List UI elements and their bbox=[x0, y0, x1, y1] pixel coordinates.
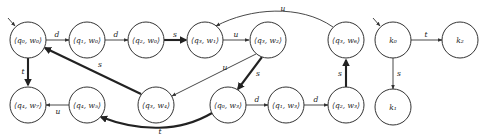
edge-q3w2-q3w4 bbox=[172, 54, 256, 96]
state-label: k₀ bbox=[389, 36, 397, 45]
edge-label: u bbox=[223, 63, 228, 72]
state-label: ⟨q₃, w₄⟩ bbox=[142, 101, 170, 110]
edge-label: t bbox=[21, 67, 25, 76]
state-q3-w1: ⟨q₃, w₁⟩ bbox=[187, 22, 223, 58]
state-k0: k₀ bbox=[375, 22, 411, 58]
state-label: k₁ bbox=[389, 103, 397, 112]
state-q4-w7: ⟨q₄, w₇⟩ bbox=[10, 87, 46, 123]
state-k1: k₁ bbox=[375, 89, 411, 125]
state-q0-w0: ⟨q₀, w₀⟩ bbox=[10, 22, 46, 58]
state-q0-w3: ⟨q₀, w₃⟩ bbox=[210, 87, 246, 123]
state-label: ⟨q₁, w₃⟩ bbox=[272, 101, 300, 110]
state-label: ⟨q₁, w₀⟩ bbox=[73, 36, 101, 45]
edge-label: s bbox=[173, 30, 177, 39]
state-label: k₂ bbox=[456, 36, 464, 45]
state-label: ⟨q₀, w₀⟩ bbox=[14, 36, 42, 45]
state-label: ⟨q₂, w₃⟩ bbox=[332, 101, 360, 110]
state-label: ⟨q₄, w₇⟩ bbox=[14, 101, 42, 110]
state-label: ⟨q₂, w₀⟩ bbox=[132, 36, 160, 45]
edge-label: u bbox=[56, 107, 61, 116]
state-label: ⟨q₃, w₁⟩ bbox=[191, 36, 219, 45]
state-label: ⟨q₀, w₃⟩ bbox=[214, 101, 242, 110]
automaton-diagram: d d s u u u s s t u t d d s t s ⟨q₀, w₀⟩… bbox=[0, 0, 496, 137]
edge-label: s bbox=[98, 60, 102, 69]
state-q3-w2: ⟨q₃, w₂⟩ bbox=[250, 22, 286, 58]
state-q1-w0: ⟨q₁, w₀⟩ bbox=[69, 22, 105, 58]
edge-label: d bbox=[114, 30, 119, 39]
edge-label: s bbox=[338, 69, 342, 78]
state-q2-w3: ⟨q₂, w₃⟩ bbox=[328, 87, 364, 123]
state-q4-w5: ⟨q₄, w₅⟩ bbox=[69, 87, 105, 123]
edge-label: d bbox=[255, 95, 260, 104]
edge-label: d bbox=[314, 95, 319, 104]
state-label: ⟨q₄, w₅⟩ bbox=[73, 101, 101, 110]
state-q3-w6: ⟨q₃, w₆⟩ bbox=[328, 22, 364, 58]
initial-arrow-k0 bbox=[373, 18, 380, 26]
state-k2: k₂ bbox=[442, 22, 478, 58]
edge-label: d bbox=[55, 30, 60, 39]
edge-label: u bbox=[281, 4, 286, 13]
initial-arrow-q0w0 bbox=[8, 18, 15, 26]
edge-label: s bbox=[397, 69, 401, 78]
state-q3-w4: ⟨q₃, w₄⟩ bbox=[138, 87, 174, 123]
state-label: ⟨q₃, w₆⟩ bbox=[332, 36, 360, 45]
state-q1-w3: ⟨q₁, w₃⟩ bbox=[268, 87, 304, 123]
state-label: ⟨q₃, w₂⟩ bbox=[254, 36, 282, 45]
state-q2-w0: ⟨q₂, w₀⟩ bbox=[128, 22, 164, 58]
edge-label: t bbox=[424, 30, 428, 39]
edge-label: u bbox=[234, 30, 239, 39]
edge-label: s bbox=[256, 69, 260, 78]
